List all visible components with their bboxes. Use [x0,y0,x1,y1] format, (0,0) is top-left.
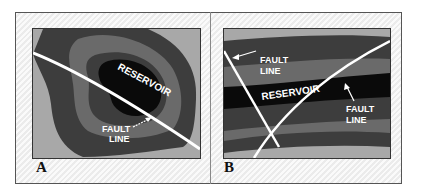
panel-a-map: RESERVOIR FAULT LINE [32,28,201,159]
fault-label-b-left-line2: LINE [260,66,281,76]
map-view-diagram: RESERVOIR FAULT LINE [33,29,200,158]
fault-label-a-line2: LINE [109,134,130,144]
fault-label-b-right-line1: FAULT [346,104,375,114]
panel-divider [210,12,211,184]
panel-label-a: A [36,159,47,176]
fault-label-b-right-line2: LINE [346,115,367,125]
fault-label-b-left-line1: FAULT [260,55,289,65]
cross-section-diagram: FAULT LINE RESERVOIR FAULT LINE [224,29,390,158]
panel-label-b: B [224,159,234,176]
panel-b-cross-section: FAULT LINE RESERVOIR FAULT LINE [223,28,391,159]
fault-label-a-line1: FAULT [102,124,131,134]
